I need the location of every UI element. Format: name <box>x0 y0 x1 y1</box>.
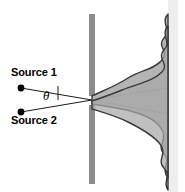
source-1-dot <box>18 85 25 92</box>
screen-band <box>168 0 178 192</box>
diffraction-pattern-source-1 <box>92 26 168 190</box>
source-2-label: Source 2 <box>11 114 57 126</box>
angle-theta-label: θ <box>43 88 49 104</box>
source-1-label: Source 1 <box>11 66 57 78</box>
diagram-canvas <box>0 0 185 192</box>
optics-diagram: Source 1 Source 2 θ <box>0 0 185 192</box>
aperture-bar-lower <box>89 105 95 184</box>
aperture-bar-upper <box>89 14 95 96</box>
